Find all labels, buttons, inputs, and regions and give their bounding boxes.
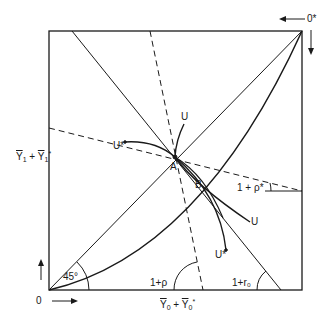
arc-45 <box>77 262 89 290</box>
rho-star-dashed-line <box>49 128 302 191</box>
arc-rho-star <box>270 183 271 191</box>
curve-u-top-label: U <box>181 112 188 122</box>
point-a-dot <box>173 155 177 159</box>
edgeworth-box-diagram: 0 0* Y1 + Y1* Y0 + Y0* 45° 1+ρ 1+r₀ 1 + … <box>0 0 329 329</box>
angle-rho-star-label: 1 + ρ* <box>237 183 264 193</box>
x-axis-label: Y0 + Y0* <box>160 298 195 311</box>
angle-rho-label: 1+ρ <box>150 278 167 288</box>
curve-u-star-bottom-label: U* <box>215 250 226 260</box>
origin-star-label: 0* <box>307 14 316 24</box>
curve-u-star-left-label: U* <box>113 141 124 151</box>
curve-u-right-label: U <box>251 217 258 227</box>
arc-rho <box>174 262 197 290</box>
point-b-label: B <box>195 180 202 190</box>
point-a-label: A <box>170 162 177 172</box>
origin-label: 0 <box>36 296 42 306</box>
angle-r0-label: 1+r₀ <box>232 278 251 288</box>
y-axis-label: Y1 + Y1* <box>16 150 51 163</box>
angle-45-label: 45° <box>63 272 78 282</box>
arc-r0 <box>257 271 266 290</box>
